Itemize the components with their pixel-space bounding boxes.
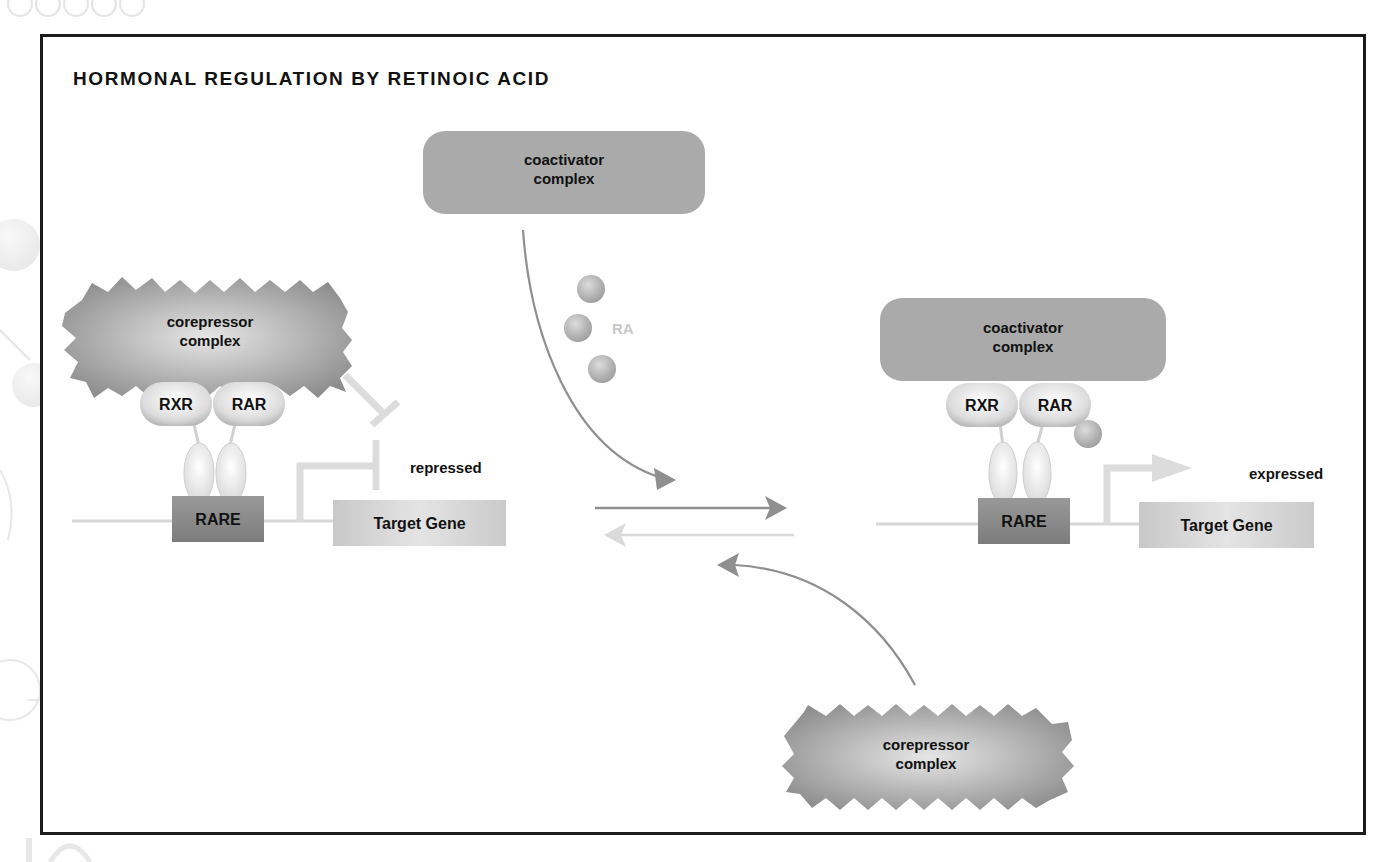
rxr-dna-binding-domain-left <box>184 443 214 503</box>
corepressor-label-bottom: corepressor complex <box>856 736 996 774</box>
rxr-label-left: RXR <box>140 395 212 415</box>
status-expressed: expressed <box>1249 465 1323 484</box>
rare-label-right: RARE <box>978 512 1070 532</box>
coactivator-label-top: coactivator complex <box>423 151 705 189</box>
ra-ligand-ball <box>564 314 592 342</box>
rxr-dna-binding-domain-right <box>989 442 1017 504</box>
target-gene-label-right: Target Gene <box>1139 516 1314 536</box>
rar-label-left: RAR <box>213 395 285 415</box>
rxr-label-right: RXR <box>946 396 1018 416</box>
target-gene-label-left: Target Gene <box>333 514 506 534</box>
center-transition <box>423 131 1074 810</box>
coactivator-label-right: coactivator complex <box>880 319 1166 357</box>
rar-dna-binding-domain-left <box>216 443 246 503</box>
ra-ligand-ball <box>588 355 616 383</box>
rar-label-right: RAR <box>1019 396 1091 416</box>
ra-ligand-label: RA <box>612 320 634 337</box>
corepressor-label-left: corepressor complex <box>140 313 280 351</box>
rare-label-left: RARE <box>172 510 264 530</box>
status-repressed: repressed <box>410 459 482 478</box>
diagram-graphics <box>0 0 1393 862</box>
ra-ligand-ball <box>577 275 605 303</box>
rar-dna-binding-domain-right <box>1023 442 1051 504</box>
ra-ligand-bound <box>1074 420 1102 448</box>
